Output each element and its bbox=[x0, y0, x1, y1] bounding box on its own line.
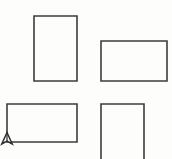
canvas-background bbox=[0, 0, 172, 159]
drawing-surface bbox=[0, 0, 172, 159]
turtle-graphics-canvas[interactable] bbox=[0, 0, 172, 159]
